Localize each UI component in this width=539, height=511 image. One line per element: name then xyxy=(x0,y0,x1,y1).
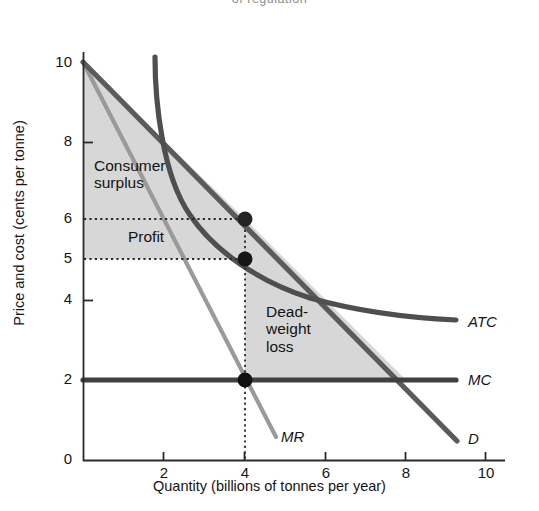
monopoly-regulation-chart: of regulation xyxy=(0,0,539,511)
consumer-surplus-line-2: surplus xyxy=(94,174,166,191)
chart-canvas xyxy=(0,0,539,511)
deadweight-loss-line-3: loss xyxy=(266,338,311,355)
deadweight-loss-label: Dead- weight loss xyxy=(266,303,311,355)
y-tick-label-8: 8 xyxy=(46,132,72,149)
chart-title: of regulation xyxy=(0,0,539,6)
y-tick-label-6: 6 xyxy=(46,209,72,226)
price-point-marker xyxy=(238,212,253,227)
deadweight-loss-line-2: weight xyxy=(266,320,311,337)
mr-mc-point-marker xyxy=(238,373,253,388)
consumer-surplus-line-1: Consumer xyxy=(94,157,166,174)
x-tick-label-10: 10 xyxy=(473,464,499,481)
profit-label: Profit xyxy=(128,228,164,245)
x-tick-label-6: 6 xyxy=(313,464,339,481)
y-tick-label-4: 4 xyxy=(46,290,72,307)
x-axis-title: Quantity (billions of tonnes per year) xyxy=(0,478,539,494)
deadweight-loss-line-1: Dead- xyxy=(266,303,311,320)
curve-label-mc: MC xyxy=(468,371,491,388)
y-axis-title: Price and cost (cents per tonne) xyxy=(11,73,27,373)
curve-label-atc: ATC xyxy=(468,313,497,330)
y-tick-label-0: 0 xyxy=(46,450,72,467)
curve-label-mr: MR xyxy=(281,428,304,445)
y-tick-label-5: 5 xyxy=(46,249,72,266)
curve-label-d: D xyxy=(468,430,479,447)
x-tick-label-8: 8 xyxy=(393,464,419,481)
atc-point-marker xyxy=(238,252,253,267)
y-tick-label-2: 2 xyxy=(46,370,72,387)
x-tick-label-2: 2 xyxy=(151,464,177,481)
x-tick-label-4: 4 xyxy=(232,464,258,481)
y-tick-label-10: 10 xyxy=(46,53,72,70)
consumer-surplus-label: Consumer surplus xyxy=(94,157,166,192)
